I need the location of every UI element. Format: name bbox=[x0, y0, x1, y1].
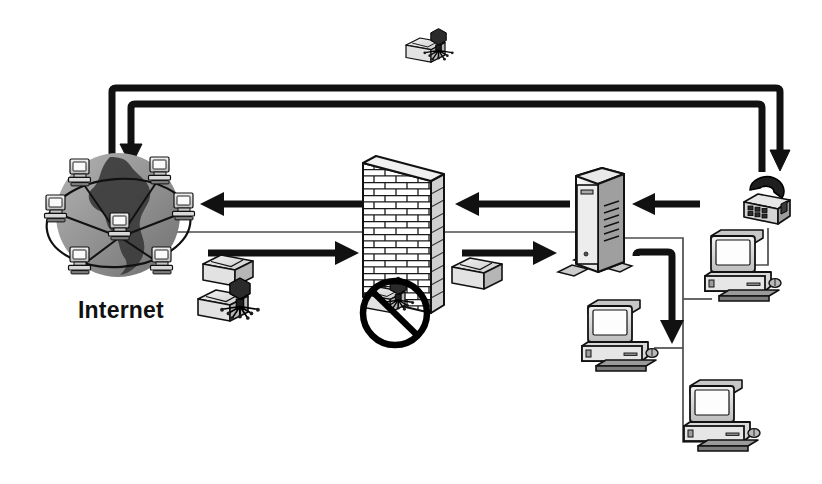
internet-label: Internet bbox=[78, 297, 164, 324]
clean-packet-inside bbox=[452, 258, 502, 289]
diagram-scene bbox=[0, 0, 822, 484]
network-diagram-canvas: Internet bbox=[0, 0, 822, 484]
